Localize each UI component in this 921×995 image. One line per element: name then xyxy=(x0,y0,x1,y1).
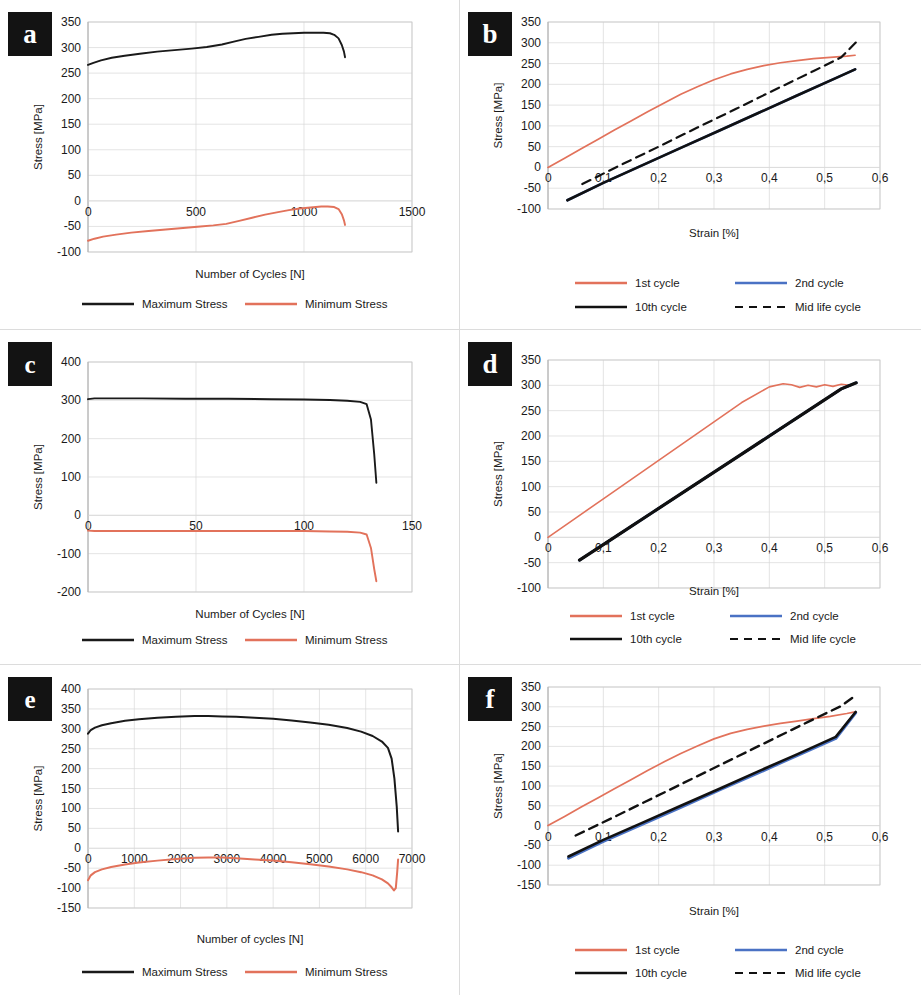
svg-text:Minimum Stress: Minimum Stress xyxy=(305,966,388,978)
svg-text:300: 300 xyxy=(521,700,541,714)
svg-text:Strain [%]: Strain [%] xyxy=(689,905,739,917)
svg-text:-50: -50 xyxy=(524,556,542,570)
series-maximum-stress xyxy=(88,33,345,65)
svg-text:0: 0 xyxy=(74,508,81,522)
svg-text:Mid life cycle: Mid life cycle xyxy=(795,301,861,313)
svg-text:100: 100 xyxy=(61,470,81,484)
svg-text:300: 300 xyxy=(61,722,81,736)
series-maximum-stress xyxy=(88,398,376,482)
svg-text:Strain [%]: Strain [%] xyxy=(689,227,739,239)
svg-text:-100: -100 xyxy=(57,547,81,561)
svg-text:50: 50 xyxy=(68,168,82,182)
svg-text:350: 350 xyxy=(521,353,541,367)
svg-text:Number of cycles [N]: Number of cycles [N] xyxy=(197,933,304,945)
svg-text:0,3: 0,3 xyxy=(706,830,723,844)
svg-text:-100: -100 xyxy=(517,858,541,872)
svg-text:-150: -150 xyxy=(57,901,81,915)
svg-text:0: 0 xyxy=(85,852,92,866)
svg-text:Mid life cycle: Mid life cycle xyxy=(790,633,856,645)
svg-text:0,5: 0,5 xyxy=(816,171,833,185)
svg-text:400: 400 xyxy=(61,355,81,369)
svg-text:0: 0 xyxy=(545,830,552,844)
svg-text:-50: -50 xyxy=(524,838,542,852)
svg-text:0: 0 xyxy=(545,171,552,185)
svg-text:-200: -200 xyxy=(57,585,81,599)
svg-text:0: 0 xyxy=(545,541,552,555)
svg-text:250: 250 xyxy=(61,66,81,80)
chart-d: -100-5005010015020025030035000,10,20,30,… xyxy=(460,330,921,665)
svg-text:250: 250 xyxy=(521,404,541,418)
svg-text:250: 250 xyxy=(521,57,541,71)
svg-text:0: 0 xyxy=(74,194,81,208)
svg-text:0,3: 0,3 xyxy=(706,541,723,555)
svg-text:50: 50 xyxy=(528,505,542,519)
panel-letter-a: a xyxy=(8,12,52,56)
svg-text:-50: -50 xyxy=(524,181,542,195)
svg-text:0: 0 xyxy=(534,160,541,174)
series-1st-cycle xyxy=(548,712,855,826)
svg-text:150: 150 xyxy=(521,759,541,773)
svg-text:300: 300 xyxy=(61,41,81,55)
panel-c: c -200-1000100200300400050100150Number o… xyxy=(0,330,460,665)
panel-letter-f: f xyxy=(468,677,512,721)
svg-text:100: 100 xyxy=(521,480,541,494)
svg-text:Strain [%]: Strain [%] xyxy=(689,585,739,597)
svg-text:0,4: 0,4 xyxy=(761,541,778,555)
svg-text:0,5: 0,5 xyxy=(816,830,833,844)
svg-text:150: 150 xyxy=(61,117,81,131)
divider-vertical xyxy=(459,0,460,995)
svg-text:-50: -50 xyxy=(64,219,82,233)
chart-c: -200-1000100200300400050100150Number of … xyxy=(0,330,460,665)
svg-text:200: 200 xyxy=(521,77,541,91)
svg-text:3000: 3000 xyxy=(214,852,241,866)
svg-text:Maximum Stress: Maximum Stress xyxy=(142,298,228,310)
series-minimum-stress xyxy=(88,531,376,582)
panel-letter-b: b xyxy=(468,12,512,56)
svg-text:50: 50 xyxy=(68,821,82,835)
svg-text:300: 300 xyxy=(61,393,81,407)
svg-text:300: 300 xyxy=(521,36,541,50)
svg-text:1st cycle: 1st cycle xyxy=(635,277,680,289)
svg-text:Number of Cycles [N]: Number of Cycles [N] xyxy=(195,608,304,620)
svg-text:0,6: 0,6 xyxy=(872,830,889,844)
svg-text:Stress [MPa]: Stress [MPa] xyxy=(492,753,504,819)
svg-text:-150: -150 xyxy=(517,878,541,892)
svg-text:Maximum Stress: Maximum Stress xyxy=(142,634,228,646)
panel-f: f -150-100-5005010015020025030035000,10,… xyxy=(460,665,921,995)
svg-text:0,2: 0,2 xyxy=(650,541,667,555)
series-1st-cycle xyxy=(548,383,856,538)
svg-text:-50: -50 xyxy=(64,861,82,875)
svg-text:-100: -100 xyxy=(57,245,81,259)
svg-text:200: 200 xyxy=(521,739,541,753)
svg-text:6000: 6000 xyxy=(352,852,379,866)
svg-text:Stress [MPa]: Stress [MPa] xyxy=(492,83,504,149)
svg-text:0,2: 0,2 xyxy=(650,830,667,844)
svg-text:1st cycle: 1st cycle xyxy=(630,610,675,622)
svg-text:Stress [MPa]: Stress [MPa] xyxy=(492,441,504,507)
svg-text:0: 0 xyxy=(85,205,92,219)
svg-text:0,6: 0,6 xyxy=(872,171,889,185)
svg-text:100: 100 xyxy=(521,779,541,793)
panel-e: e -150-100-50050100150200250300350400010… xyxy=(0,665,460,995)
svg-text:Stress [MPa]: Stress [MPa] xyxy=(32,104,44,170)
svg-text:250: 250 xyxy=(521,720,541,734)
svg-text:0,5: 0,5 xyxy=(816,541,833,555)
svg-text:200: 200 xyxy=(61,432,81,446)
svg-text:2nd cycle: 2nd cycle xyxy=(795,277,844,289)
panel-a: a -100-500501001502002503003500500100015… xyxy=(0,0,460,330)
svg-text:Mid life cycle: Mid life cycle xyxy=(795,967,861,979)
svg-text:0,6: 0,6 xyxy=(872,541,889,555)
series-mid-life-cycle xyxy=(582,42,856,185)
svg-text:-100: -100 xyxy=(517,202,541,216)
series-mid-life-cycle xyxy=(576,695,857,836)
svg-text:0,4: 0,4 xyxy=(761,171,778,185)
svg-text:350: 350 xyxy=(521,680,541,694)
svg-text:100: 100 xyxy=(521,119,541,133)
svg-text:50: 50 xyxy=(528,799,542,813)
svg-text:200: 200 xyxy=(61,762,81,776)
svg-text:10th cycle: 10th cycle xyxy=(635,301,687,313)
svg-text:250: 250 xyxy=(61,742,81,756)
svg-text:150: 150 xyxy=(521,454,541,468)
svg-text:Stress [MPa]: Stress [MPa] xyxy=(32,766,44,832)
figure-grid: a -100-500501001502002503003500500100015… xyxy=(0,0,921,995)
